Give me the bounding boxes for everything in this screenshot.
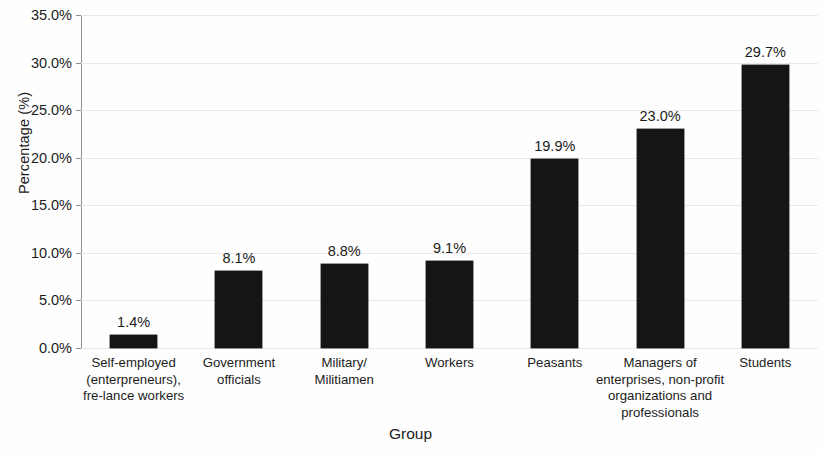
y-axis-tick-mark — [76, 205, 81, 206]
bar[interactable] — [321, 264, 368, 348]
bar-value-label: 8.8% — [328, 243, 361, 259]
gridline — [81, 15, 818, 16]
x-axis-tick-label-line: professionals — [594, 405, 725, 422]
y-axis-tick-label: 0.0% — [6, 340, 72, 356]
bar[interactable] — [742, 65, 789, 348]
x-axis-title: Group — [0, 425, 821, 443]
y-axis-tick-mark — [76, 15, 81, 16]
bar-value-label: 19.9% — [534, 138, 575, 154]
y-axis-tick-mark — [76, 110, 81, 111]
bar-value-label: 23.0% — [640, 108, 681, 124]
y-axis-tick-label: 5.0% — [6, 292, 72, 308]
gridline — [81, 63, 818, 64]
x-axis-tick-label-line: Militiamen — [279, 372, 410, 389]
gridline — [81, 348, 818, 349]
x-axis-tick-label-line: fre-lance workers — [68, 388, 199, 405]
y-axis-tick-mark — [76, 63, 81, 64]
x-axis-tick-label: Students — [700, 355, 821, 372]
bar-value-label: 8.1% — [222, 250, 255, 266]
bar[interactable] — [531, 159, 578, 348]
y-axis-tick-mark — [76, 348, 81, 349]
y-axis-tick-label: 20.0% — [6, 150, 72, 166]
y-axis-tick-mark — [76, 253, 81, 254]
bar[interactable] — [637, 129, 684, 348]
y-axis-tick-mark — [76, 158, 81, 159]
y-axis-tick-label: 30.0% — [6, 55, 72, 71]
bar-value-label: 29.7% — [745, 44, 786, 60]
bar[interactable] — [426, 261, 473, 348]
gridline — [81, 205, 818, 206]
x-axis-tick-label-line: enterprises, non-profit — [594, 372, 725, 389]
x-axis-tick-labels: Self-employed(enterpreneurs),fre-lance w… — [81, 355, 818, 417]
gridline — [81, 110, 818, 111]
gridline — [81, 158, 818, 159]
x-axis-tick-label-line: organizations and — [594, 388, 725, 405]
x-axis-tick-label-line: Students — [700, 355, 821, 372]
plot-area: 1.4%8.1%8.8%9.1%19.9%23.0%29.7% — [81, 15, 818, 348]
bar-chart: Percentage (%) 0.0%5.0%10.0%15.0%20.0%25… — [0, 0, 821, 453]
bar[interactable] — [215, 271, 262, 348]
y-axis-tick-label: 35.0% — [6, 7, 72, 23]
bar-value-label: 9.1% — [433, 240, 466, 256]
y-axis-tick-mark — [76, 300, 81, 301]
y-axis-tick-label: 10.0% — [6, 245, 72, 261]
y-axis-tick-label: 15.0% — [6, 197, 72, 213]
y-axis-tick-label: 25.0% — [6, 102, 72, 118]
bar[interactable] — [110, 335, 157, 348]
bar-value-label: 1.4% — [117, 314, 150, 330]
y-axis-tick-labels: 0.0%5.0%10.0%15.0%20.0%25.0%30.0%35.0% — [0, 0, 72, 453]
